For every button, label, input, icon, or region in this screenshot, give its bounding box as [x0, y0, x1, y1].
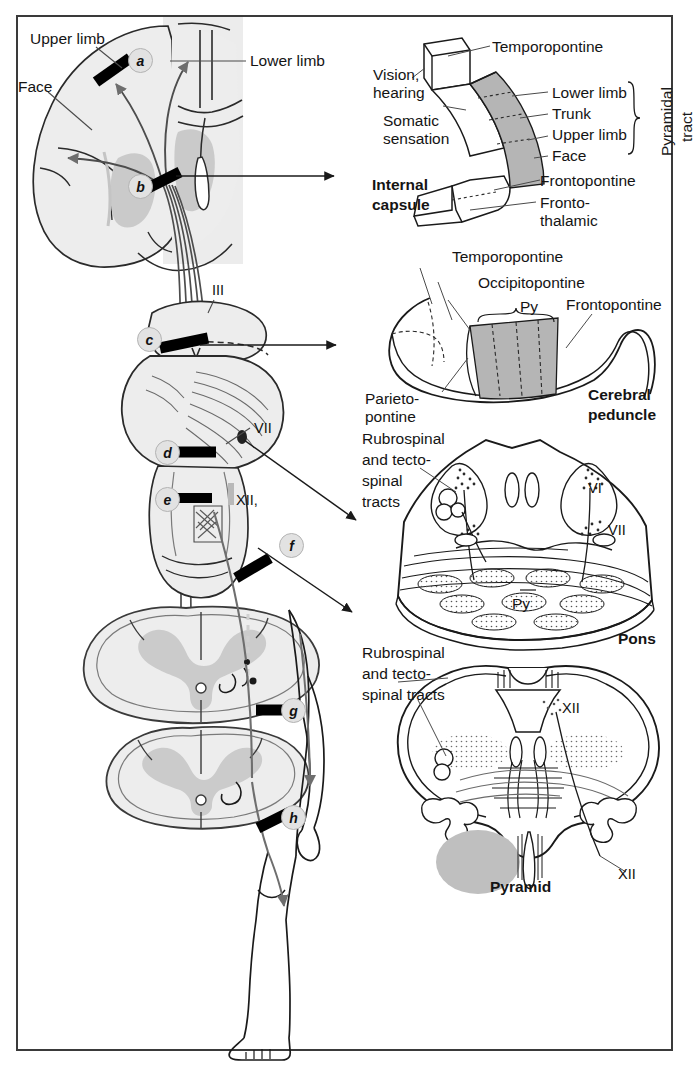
ic-label-lower-limb: Lower limb — [552, 84, 627, 101]
ic-label-face: Face — [552, 147, 586, 164]
label-nerve-III: III — [212, 282, 224, 298]
lesion-key-c[interactable]: c — [137, 327, 162, 352]
cp-label-parietopontine-line1: Parieto- — [365, 390, 419, 407]
ic-label-frontothalamic-line2: thalamic — [540, 212, 598, 229]
ic-brace-label-line1: Pyramidal — [658, 87, 676, 156]
pons-drawing — [396, 440, 654, 650]
ic-label-upper-limb: Upper limb — [552, 126, 627, 143]
leader-to-pyramid — [258, 548, 352, 612]
label-face: Face — [18, 78, 52, 95]
figure-root: Upper limb Face Lower limb III VII XII, … — [0, 0, 695, 1068]
pyr-leader-line1: Rubrospinal — [362, 644, 445, 661]
pyr-label-XII-bottom: XII — [618, 866, 636, 882]
lesion-key-h[interactable]: h — [281, 805, 306, 830]
pons-label-VI: VI — [588, 480, 602, 496]
pons-leader-line1: Rubrospinal — [362, 430, 445, 447]
ic-label-trunk: Trunk — [552, 105, 591, 122]
pyr-leader-line2: and tecto- — [362, 665, 431, 682]
lesion-key-e[interactable]: e — [155, 487, 180, 512]
cp-label-parietopontine-line2: pontine — [365, 408, 416, 425]
pons-title: Pons — [618, 630, 656, 647]
lesion-key-g[interactable]: g — [281, 698, 306, 723]
pons-label-VII: VII — [608, 522, 626, 538]
pyr-leader-line3: spinal tracts — [362, 686, 445, 703]
label-nerve-VII: VII — [254, 420, 272, 436]
ic-title-line2: capsule — [372, 196, 430, 213]
pons-leader-line3: spinal — [362, 472, 403, 489]
cp-label-frontopontine: Frontopontine — [566, 296, 662, 313]
pyr-label-XII-top: XII — [562, 700, 580, 716]
label-upper-limb: Upper limb — [30, 30, 105, 47]
label-nerve-XII: XII, — [236, 492, 258, 508]
label-lower-limb: Lower limb — [250, 52, 325, 69]
lesion-key-d[interactable]: d — [155, 440, 180, 465]
cp-label-occipitopontine: Occipitopontine — [478, 274, 585, 291]
ic-label-somatic-sensation-line1: Somatic — [383, 112, 439, 129]
lesion-key-f[interactable]: f — [279, 533, 304, 558]
pons-leader-line4: tracts — [362, 493, 400, 510]
ic-title-line1: Internal — [372, 176, 428, 193]
lesion-key-b[interactable]: b — [128, 174, 153, 199]
lesion-key-a[interactable]: a — [128, 48, 153, 73]
cp-title-line1: Cerebral — [588, 386, 651, 403]
ic-brace-label-line2: tract — [678, 112, 695, 142]
pyr-title: Pyramid — [490, 878, 551, 895]
ic-label-temporopontine: Temporopontine — [492, 38, 603, 55]
cp-title-line2: peduncle — [588, 406, 656, 423]
pons-label-py: Py — [512, 595, 530, 612]
hypoglossal-column — [228, 483, 234, 505]
ic-label-vision-hearing-line2: hearing — [373, 84, 425, 101]
ic-label-frontothalamic-line1: Fronto- — [540, 194, 590, 211]
cp-label-temporopontine: Temporopontine — [452, 248, 563, 265]
ic-label-somatic-sensation-line2: sensation — [383, 130, 449, 147]
leader-to-pons — [244, 440, 356, 520]
ic-label-frontopontine: Frontopontine — [540, 172, 636, 189]
cp-label-py: Py — [520, 298, 538, 315]
pons-leader-line2: and tecto- — [362, 451, 431, 468]
main-illustration — [0, 0, 695, 1068]
ic-label-vision-hearing-line1: Vision, — [373, 66, 419, 83]
